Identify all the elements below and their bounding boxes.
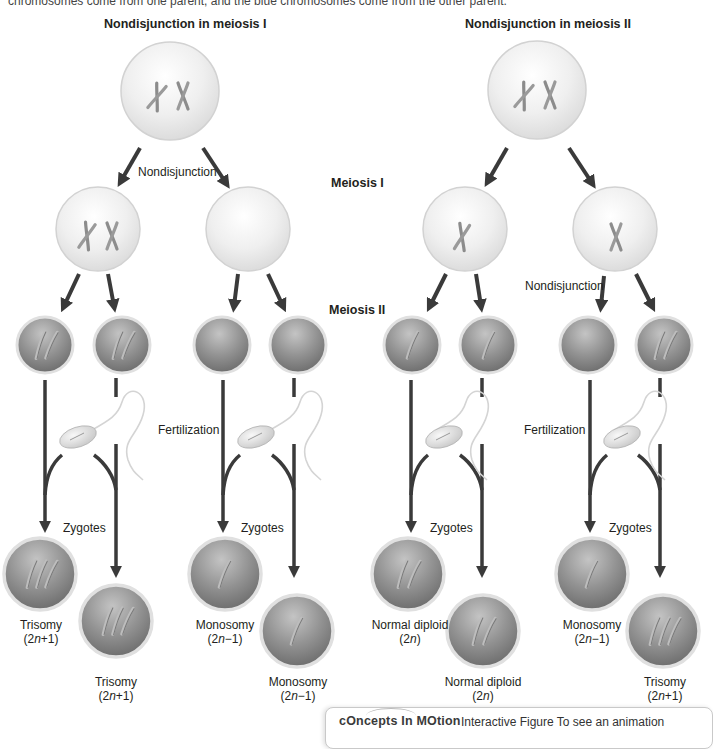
outcome-label-7: Monosomy (2n−1) <box>557 618 627 646</box>
outcome-formula: (2n) <box>368 632 452 646</box>
outcome-label-8: Trisomy (2n+1) <box>636 675 694 703</box>
panel-meiosis-1 <box>4 42 333 667</box>
zygote-6 <box>447 595 519 667</box>
outcome-label-2: Trisomy (2n+1) <box>87 675 145 703</box>
zygotes-label-3: Zygotes <box>430 521 473 535</box>
outcome-formula: (2n+1) <box>12 632 70 646</box>
gamete-4 <box>270 317 326 373</box>
zygote-2 <box>80 585 152 657</box>
zygote-5 <box>372 538 444 610</box>
sperm-icon-2 <box>235 391 323 480</box>
sperm-icon-4 <box>601 391 667 480</box>
meiosis1-cell-left <box>56 187 140 271</box>
outcome-label-1: Trisomy (2n+1) <box>12 618 70 646</box>
nondisjunction-label-1: Nondisjunction <box>138 165 217 179</box>
stage-label-meiosis-2: Meiosis II <box>329 303 385 317</box>
parent-cell-2 <box>488 41 586 139</box>
gamete-2 <box>94 317 150 373</box>
nondisjunction-label-2: Nondisjunction <box>525 279 604 293</box>
gamete-8 <box>636 317 692 373</box>
outcome-name: Trisomy <box>12 618 70 632</box>
concepts-in-motion-logo: cOncepts In MOtion <box>339 714 461 728</box>
outcome-formula: (2n−1) <box>263 689 333 703</box>
outcome-label-5: Normal diploid (2n) <box>368 618 452 646</box>
meiosis1-cell-right-2 <box>573 187 657 271</box>
outcome-label-6: Normal diploid (2n) <box>441 675 525 703</box>
gamete-6 <box>460 317 516 373</box>
parent-cell <box>121 42 219 140</box>
sperm-icon-3 <box>423 391 489 480</box>
outcome-name: Monosomy <box>557 618 627 632</box>
outcome-name: Normal diploid <box>441 675 525 689</box>
outcome-name: Normal diploid <box>368 618 452 632</box>
meiosis1-cell-right <box>206 187 290 271</box>
interactive-figure-link[interactable]: Interactive Figure To see an animation <box>461 715 664 729</box>
sperm-icon-1 <box>57 391 145 480</box>
outcome-name: Monosomy <box>190 618 260 632</box>
outcome-label-3: Monosomy (2n−1) <box>190 618 260 646</box>
zygotes-label-1: Zygotes <box>63 521 106 535</box>
meiosis1-cell-left-2 <box>423 187 507 271</box>
gamete-5 <box>384 317 440 373</box>
zygotes-label-2: Zygotes <box>241 521 284 535</box>
concepts-in-motion-box[interactable]: cOncepts In MOtion Interactive Figure To… <box>325 707 713 749</box>
zygote-3 <box>189 538 261 610</box>
outcome-formula: (2n) <box>441 689 525 703</box>
zygote-8 <box>627 595 699 667</box>
outcome-formula: (2n−1) <box>190 632 260 646</box>
fertilization-label-2: Fertilization <box>524 423 585 437</box>
outcome-name: Monosomy <box>263 675 333 689</box>
zygote-4 <box>261 595 333 667</box>
zygote-7 <box>556 538 628 610</box>
outcome-name: Trisomy <box>636 675 694 689</box>
panel-meiosis-2 <box>372 41 699 667</box>
outcome-formula: (2n+1) <box>636 689 694 703</box>
fertilization-label-1: Fertilization <box>158 423 219 437</box>
gamete-7 <box>560 317 616 373</box>
outcome-label-4: Monosomy (2n−1) <box>263 675 333 703</box>
stage-label-meiosis-1: Meiosis I <box>331 176 384 190</box>
outcome-name: Trisomy <box>87 675 145 689</box>
zygotes-label-4: Zygotes <box>609 521 652 535</box>
zygote-1 <box>4 538 76 610</box>
gamete-1 <box>17 317 73 373</box>
outcome-formula: (2n−1) <box>557 632 627 646</box>
outcome-formula: (2n+1) <box>87 689 145 703</box>
gamete-3 <box>194 317 250 373</box>
